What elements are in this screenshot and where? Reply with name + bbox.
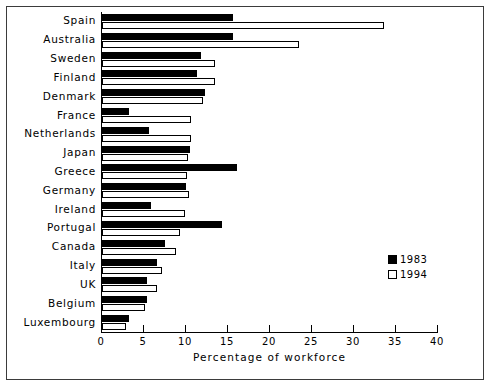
bar-1983-belgium (102, 296, 147, 303)
category-group: Sweden (0, 50, 491, 69)
category-label: Germany (43, 184, 96, 196)
x-tick-label: 10 (170, 336, 200, 347)
x-tick-label: 30 (338, 336, 368, 347)
category-label: Greece (54, 165, 96, 177)
legend-swatch-1983 (388, 255, 397, 264)
bar-1983-finland (102, 70, 197, 77)
x-tick-label: 40 (422, 336, 452, 347)
bar-1983-luxembourg (102, 315, 129, 322)
bar-1983-greece (102, 164, 237, 171)
category-group: Japan (0, 144, 491, 163)
bar-1994-japan (102, 154, 188, 161)
category-label: Netherlands (24, 127, 96, 139)
bar-1994-france (102, 116, 191, 123)
category-label: Ireland (55, 203, 96, 215)
bar-1983-italy (102, 259, 157, 266)
x-tick-label: 15 (212, 336, 242, 347)
bar-1983-germany (102, 183, 186, 190)
category-label: Australia (43, 33, 96, 45)
category-group: Belgium (0, 294, 491, 313)
bar-1983-sweden (102, 52, 201, 59)
chart-figure: 0510152025303540 SpainAustraliaSwedenFin… (0, 0, 491, 388)
category-label: Canada (52, 240, 96, 252)
bar-1994-canada (102, 248, 176, 255)
chart-legend: 1983 1994 (388, 253, 427, 283)
bar-1994-portugal (102, 229, 180, 236)
bar-1994-sweden (102, 60, 215, 67)
category-group: Germany (0, 181, 491, 200)
category-group: Greece (0, 163, 491, 182)
category-label: Italy (70, 259, 96, 271)
bar-1994-uk (102, 285, 157, 292)
x-axis-line (101, 332, 438, 333)
bar-1994-italy (102, 267, 162, 274)
category-label: Luxembourg (24, 316, 96, 328)
bar-1994-denmark (102, 97, 203, 104)
bar-1983-uk (102, 277, 147, 284)
bar-1983-australia (102, 33, 233, 40)
category-group: Finland (0, 68, 491, 87)
bar-1994-australia (102, 41, 299, 48)
bar-1994-spain (102, 22, 384, 29)
x-tick-label: 25 (296, 336, 326, 347)
category-group: Portugal (0, 219, 491, 238)
bar-1983-france (102, 108, 129, 115)
category-label: Spain (63, 14, 96, 26)
category-label: Belgium (48, 297, 96, 309)
category-group: Ireland (0, 200, 491, 219)
bar-1983-denmark (102, 89, 205, 96)
legend-label-1994: 1994 (400, 269, 427, 280)
x-axis-title: Percentage of workforce (101, 351, 438, 363)
x-tick-label: 0 (86, 336, 116, 347)
category-label: Denmark (43, 90, 96, 102)
category-group: France (0, 106, 491, 125)
bar-1983-canada (102, 240, 165, 247)
category-group: Luxembourg (0, 313, 491, 332)
category-label: UK (80, 278, 96, 290)
bar-1994-finland (102, 78, 215, 85)
legend-swatch-1994 (388, 270, 397, 279)
bar-1983-japan (102, 146, 190, 153)
bar-1994-ireland (102, 210, 185, 217)
category-group: Spain (0, 12, 491, 31)
x-tick-label: 5 (128, 336, 158, 347)
category-group: Denmark (0, 87, 491, 106)
bar-1983-netherlands (102, 127, 149, 134)
bar-1994-luxembourg (102, 323, 126, 330)
bar-1994-belgium (102, 304, 145, 311)
category-label: Portugal (47, 221, 96, 233)
category-group: Netherlands (0, 125, 491, 144)
bar-1994-greece (102, 172, 187, 179)
category-label: Sweden (50, 52, 96, 64)
bar-1983-ireland (102, 202, 151, 209)
category-label: France (57, 109, 96, 121)
bar-1994-netherlands (102, 135, 191, 142)
category-label: Finland (54, 71, 96, 83)
x-tick-label: 35 (380, 336, 410, 347)
bar-1983-spain (102, 14, 233, 21)
category-group: Australia (0, 31, 491, 50)
bar-1983-portugal (102, 221, 222, 228)
legend-label-1983: 1983 (400, 254, 427, 265)
legend-item-1994: 1994 (388, 268, 427, 281)
bar-1994-germany (102, 191, 189, 198)
category-label: Japan (63, 146, 96, 158)
legend-item-1983: 1983 (388, 253, 427, 266)
x-tick-label: 20 (254, 336, 284, 347)
